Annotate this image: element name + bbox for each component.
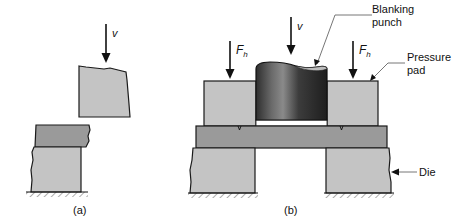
sheet-metal-b — [196, 126, 387, 148]
punch-piece-a — [79, 66, 130, 117]
die-left — [190, 148, 255, 193]
caption-b: (b) — [284, 204, 297, 216]
caption-a: (a) — [73, 204, 86, 216]
svg-text:punch: punch — [372, 16, 402, 28]
velocity-label-a: v — [112, 27, 119, 39]
force-label-left: Fh — [236, 43, 248, 59]
svg-text:Pressure: Pressure — [407, 51, 451, 63]
force-arrow-right — [349, 41, 358, 79]
svg-text:Die: Die — [419, 166, 436, 178]
force-label-right: Fh — [359, 43, 371, 59]
pressure-pad-right — [327, 81, 378, 126]
panel-b: v Fh Fh — [188, 3, 451, 216]
velocity-label-b: v — [297, 20, 304, 32]
velocity-arrow-a — [102, 24, 111, 63]
pressure-pad-left — [204, 81, 256, 126]
callout-die: Die — [391, 166, 436, 178]
punch-gap — [256, 120, 327, 126]
ground-hatch-b — [188, 193, 394, 198]
callout-pressure-pad: Pressure pad — [370, 51, 451, 81]
blanking-diagram: v (a) v Fh Fh — [0, 0, 465, 224]
blanking-punch — [256, 62, 327, 120]
force-arrow-left — [226, 41, 235, 79]
panel-a: v (a) — [26, 24, 130, 216]
svg-text:pad: pad — [407, 64, 425, 76]
sheet-piece-a — [35, 125, 90, 147]
velocity-arrow-b — [287, 17, 296, 55]
ground-hatch-a — [26, 192, 88, 197]
die-right — [326, 148, 391, 193]
die-piece-a — [31, 147, 81, 192]
svg-text:Blanking: Blanking — [372, 3, 414, 15]
